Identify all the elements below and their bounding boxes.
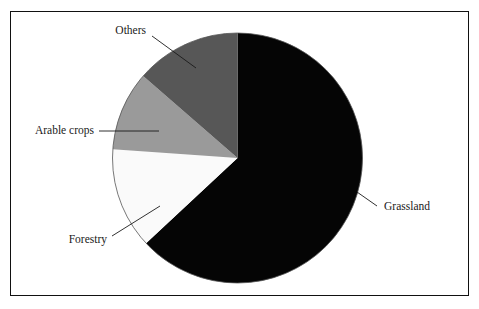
pie-label-arable-crops: Arable crops <box>35 124 95 137</box>
pie-chart: Others Arable crops Forestry Grassland <box>0 0 479 309</box>
leader-line-grassland <box>357 192 377 206</box>
figure-container: Others Arable crops Forestry Grassland <box>0 0 479 309</box>
pie-label-others: Others <box>115 24 146 36</box>
pie-label-grassland: Grassland <box>384 200 430 212</box>
pie-label-forestry: Forestry <box>69 233 108 246</box>
pie-slices-group <box>112 33 362 283</box>
